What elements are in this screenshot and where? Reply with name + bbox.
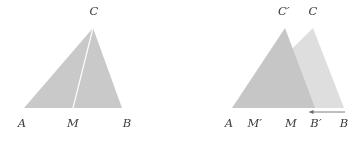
label-B-prime-right: B′	[310, 118, 321, 130]
triangle-ABC-left	[24, 28, 122, 108]
label-C-left: C	[90, 6, 99, 18]
figure-canvas	[0, 0, 353, 144]
geometry-figure: A M B C A M′ M B′ B C′ C	[0, 0, 353, 144]
arrow-head	[309, 110, 314, 114]
left-panel-group	[24, 28, 122, 108]
label-C-right: C	[309, 6, 318, 18]
right-panel-group	[232, 28, 345, 114]
translation-arrow	[309, 110, 346, 114]
label-B-left: B	[123, 118, 132, 130]
label-M-right: M	[285, 118, 297, 130]
label-M-prime-right: M′	[248, 118, 263, 130]
label-C-prime-right: C′	[278, 6, 290, 18]
label-M-left: M	[67, 118, 79, 130]
label-A-left: A	[18, 118, 27, 130]
label-B-right: B	[340, 118, 349, 130]
label-A-right: A	[225, 118, 234, 130]
